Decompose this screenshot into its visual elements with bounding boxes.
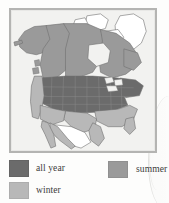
legend-swatch-summer: [108, 161, 128, 178]
legend-label-all-year: all year: [36, 164, 65, 174]
north-america-map: [11, 10, 155, 151]
legend-item-summer: summer: [108, 161, 167, 178]
legend-item-all-year: all year: [9, 160, 65, 177]
legend-label-winter: winter: [36, 186, 61, 196]
figure-root: all year summer winter: [0, 0, 169, 203]
legend-label-summer: summer: [136, 165, 167, 175]
map-panel: [9, 8, 157, 153]
legend-swatch-all-year: [9, 160, 29, 177]
legend-item-winter: winter: [9, 182, 61, 199]
legend-swatch-winter: [9, 182, 29, 199]
